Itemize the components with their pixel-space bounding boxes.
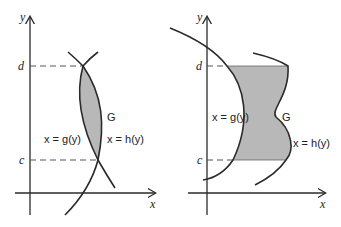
right-h-curve-label: x = h(y) (293, 137, 330, 149)
left-h-curve-label: x = h(y) (107, 133, 144, 145)
left-region-label: G (107, 111, 116, 123)
right-d-label: d (196, 59, 203, 73)
left-y-axis-label: y (19, 10, 26, 24)
left-diagram: y x d c G x = g(y) x = h(y) (15, 10, 156, 215)
left-c-label: c (19, 153, 25, 167)
right-g-curve-label: x = g(y) (212, 111, 249, 123)
right-y-axis-label: y (196, 10, 203, 24)
right-diagram: y x d c G x = g(y) x = h(y) (170, 10, 330, 215)
left-g-curve-label: x = g(y) (44, 133, 81, 145)
left-x-axis-label: x (149, 197, 156, 211)
right-c-label: c (197, 153, 203, 167)
right-region-label: G (282, 111, 291, 123)
diagram-canvas: y x d c G x = g(y) x = h(y) y x d c G x … (0, 0, 341, 227)
left-d-label: d (18, 59, 25, 73)
right-x-axis-label: x (319, 197, 326, 211)
